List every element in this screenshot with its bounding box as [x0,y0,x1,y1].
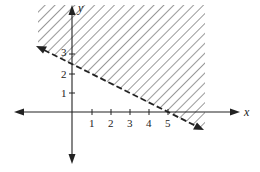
x-axis-right-arrow-icon [230,109,240,116]
y-tick-2: 2 [61,68,67,80]
y-axis-label: y [77,1,84,15]
y-tick-3: 3 [61,46,67,58]
x-tick-2: 2 [108,117,114,129]
y-tick-1: 1 [61,87,67,99]
x-tick-5: 5 [165,117,171,129]
x-tick-1: 1 [89,117,95,129]
x-axis-label: x [243,105,250,119]
inequality-graph: x y 1 2 3 4 5 1 2 3 [0,0,260,172]
x-tick-3: 3 [127,117,133,129]
x-axis-left-arrow-icon [14,109,24,116]
x-tick-4: 4 [146,117,152,129]
y-axis-down-arrow-icon [69,154,76,164]
